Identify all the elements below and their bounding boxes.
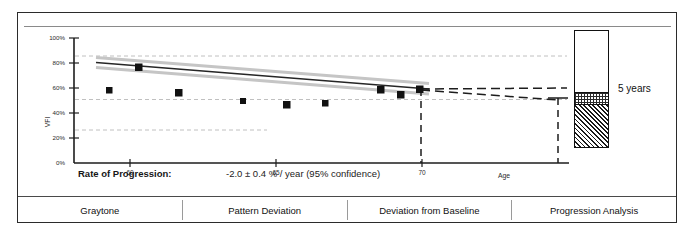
data-point [322, 100, 329, 107]
tabbar-divider [18, 196, 676, 197]
tab-progression-analysis-label: Progression Analysis [550, 205, 638, 216]
y-tick-label-100: 100% [49, 34, 65, 41]
projection-lower-line [421, 90, 558, 100]
data-point [106, 87, 113, 94]
rate-of-progression-row: Rate of Progression: -2.0 ± 0.4 % / year… [78, 165, 498, 181]
rate-of-progression-value: -2.0 ± 0.4 % / year (95% confidence) [226, 168, 380, 179]
y-tick-label-60: 60% [53, 84, 66, 91]
data-point [135, 64, 143, 72]
progression-analysis-printout: 100% 80% 60% 40% 20% 0% 60 65 70 VFI Age [0, 0, 693, 235]
tab-graytone-label: Graytone [80, 205, 119, 216]
tab-graytone[interactable]: Graytone [18, 198, 182, 222]
bar-segment-remaining [575, 31, 608, 92]
y-tick-label-0: 0% [56, 159, 65, 166]
tab-deviation-from-baseline-label: Deviation from Baseline [379, 205, 479, 216]
tabbar[interactable]: Graytone Pattern Deviation Deviation fro… [18, 198, 676, 222]
bar-segment-projected-loss [575, 105, 608, 147]
vertical-markers [421, 89, 568, 163]
five-year-projection-bar [574, 30, 609, 148]
y-tick-labels: 100% 80% 60% 40% 20% 0% [49, 34, 65, 166]
tab-pattern-deviation[interactable]: Pattern Deviation [183, 198, 347, 222]
data-point [377, 86, 385, 94]
data-point [283, 101, 291, 109]
y-tick-label-40: 40% [53, 109, 66, 116]
tab-deviation-from-baseline[interactable]: Deviation from Baseline [348, 198, 512, 222]
projection-upper-line [421, 88, 567, 89]
tab-progression-analysis[interactable]: Progression Analysis [512, 198, 676, 222]
bar-segment-uncertainty [575, 92, 608, 105]
projection-lines [421, 88, 567, 100]
regression-line [96, 63, 429, 90]
y-axis-label: VFI [44, 117, 51, 128]
data-point [240, 98, 246, 104]
data-point [416, 86, 424, 94]
five-year-label: 5 years [618, 83, 651, 94]
x-axis-label: Age [498, 172, 510, 180]
data-point [397, 91, 405, 99]
chart-axes [69, 38, 569, 167]
data-point [175, 89, 183, 97]
y-tick-label-20: 20% [53, 134, 66, 141]
rate-of-progression-label: Rate of Progression: [78, 168, 171, 179]
tab-pattern-deviation-label: Pattern Deviation [228, 205, 301, 216]
y-tick-label-80: 80% [53, 59, 66, 66]
